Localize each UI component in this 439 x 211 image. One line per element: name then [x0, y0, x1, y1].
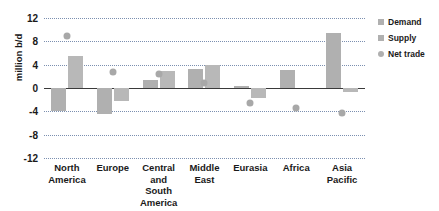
bar-demand — [143, 80, 158, 88]
x-tick-label-line: Central — [136, 162, 182, 174]
bar-demand — [280, 70, 295, 88]
bar-supply — [205, 65, 220, 88]
marker-net-trade — [109, 68, 116, 75]
y-tick-label: -8 — [29, 129, 38, 140]
y-tick-label: 8 — [32, 36, 38, 47]
bar-supply — [68, 56, 83, 88]
y-tick-label: 12 — [27, 13, 38, 24]
y-axis-title: million b/d — [13, 18, 24, 98]
x-tick-label-line: Middle — [182, 162, 228, 174]
legend-item[interactable]: Demand — [378, 15, 439, 29]
x-tick-label-line: Europe — [90, 162, 136, 174]
x-tick-label-line: and South — [136, 174, 182, 197]
y-tick-label: 0 — [32, 83, 38, 94]
x-axis-labels: NorthAmericaEuropeCentraland SouthAmeric… — [44, 162, 365, 210]
x-tick-label-line: Eurasia — [227, 162, 273, 174]
y-tick-label: -12 — [24, 153, 38, 164]
legend-item[interactable]: Net trade — [378, 47, 439, 61]
chart-group — [319, 18, 365, 158]
legend-item[interactable]: Supply — [378, 31, 439, 45]
marker-net-trade — [201, 79, 208, 86]
legend-square-icon — [378, 35, 384, 41]
y-tick-label: -4 — [29, 106, 38, 117]
chart-container: million b/d 12840-4-8-12 NorthAmericaEur… — [0, 0, 439, 211]
legend-label: Supply — [388, 33, 416, 43]
legend-square-icon — [378, 19, 384, 25]
marker-net-trade — [293, 105, 300, 112]
chart-group — [227, 18, 273, 158]
x-tick-label: Europe — [90, 162, 136, 174]
marker-net-trade — [339, 110, 346, 117]
marker-net-trade — [155, 71, 162, 78]
x-tick-label: Centraland SouthAmerica — [136, 162, 182, 208]
x-tick-label: NorthAmerica — [44, 162, 90, 185]
legend-label: Net trade — [388, 49, 425, 59]
bar-supply — [343, 88, 358, 92]
x-tick-label-line: Pacific — [319, 174, 365, 186]
legend-dot-icon — [378, 51, 384, 57]
y-tick-label: 4 — [32, 59, 38, 70]
x-tick-label-line: America — [136, 197, 182, 209]
bar-supply — [251, 88, 266, 98]
legend-label: Demand — [388, 17, 422, 27]
chart-group — [44, 18, 90, 158]
chart-group — [273, 18, 319, 158]
x-tick-label: MiddleEast — [182, 162, 228, 185]
x-tick-label-line: East — [182, 174, 228, 186]
bar-demand — [326, 33, 341, 88]
x-tick-label-line: Asia — [319, 162, 365, 174]
marker-net-trade — [63, 32, 70, 39]
marker-net-trade — [247, 100, 254, 107]
x-tick-label: Eurasia — [227, 162, 273, 174]
bar-demand — [97, 88, 112, 114]
x-axis-line — [44, 158, 365, 159]
chart-group — [182, 18, 228, 158]
x-tick-label: Africa — [273, 162, 319, 174]
x-tick-label: AsiaPacific — [319, 162, 365, 185]
x-tick-label-line: North — [44, 162, 90, 174]
bar-demand — [51, 88, 66, 111]
chart-legend: DemandSupplyNet trade — [378, 15, 439, 63]
x-tick-label-line: Africa — [273, 162, 319, 174]
chart-group — [90, 18, 136, 158]
plot-area: 12840-4-8-12 — [44, 18, 365, 158]
x-tick-label-line: America — [44, 174, 90, 186]
bar-supply — [114, 88, 129, 101]
bar-demand — [234, 86, 249, 88]
chart-group — [136, 18, 182, 158]
